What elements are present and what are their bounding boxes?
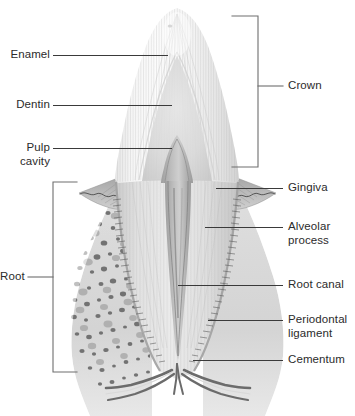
label-periodontal-ligament: Periodontal ligament	[288, 313, 355, 340]
label-gingiva: Gingiva	[288, 181, 354, 195]
label-enamel: Enamel	[6, 48, 50, 62]
label-dentin: Dentin	[6, 98, 50, 112]
label-root: Root	[0, 270, 24, 284]
tooth-anatomy-figure: Enamel Dentin Pulp cavity Root Crown Gin…	[0, 0, 355, 416]
bracket-crown	[232, 16, 283, 167]
label-pulp-cavity: Pulp cavity	[2, 141, 50, 168]
label-cementum: Cementum	[288, 353, 354, 367]
label-crown: Crown	[288, 79, 354, 93]
label-root-canal: Root canal	[288, 278, 354, 292]
label-alveolar-process: Alveolar process	[288, 220, 354, 247]
crown-region	[112, 4, 244, 186]
